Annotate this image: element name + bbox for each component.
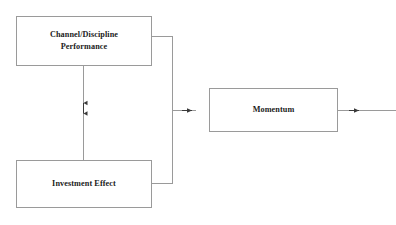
node-channel-discipline-performance-label: Channel/Discipline Performance: [46, 29, 122, 53]
node-investment-effect: Investment Effect: [16, 160, 152, 208]
node-investment-effect-label: Investment Effect: [48, 178, 120, 190]
edge-channel-momentum-line: [152, 37, 173, 111]
diagram-canvas: Channel/Discipline Performance Investmen…: [0, 0, 396, 225]
edge-investment-momentum-line: [152, 111, 173, 184]
node-momentum-label: Momentum: [249, 104, 299, 116]
node-momentum: Momentum: [209, 88, 338, 132]
node-channel-discipline-performance: Channel/Discipline Performance: [16, 16, 152, 66]
